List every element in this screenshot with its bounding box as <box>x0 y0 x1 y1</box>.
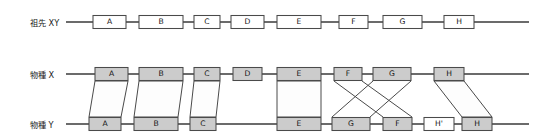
gene-species-x-D[interactable]: D <box>233 68 262 81</box>
gene-label: C <box>200 119 205 128</box>
row-label-ancestor: 祖先 XY <box>30 18 60 28</box>
gene-label: A <box>102 119 108 128</box>
gene-ancestor-E[interactable]: E <box>277 16 321 29</box>
gene-species-y-B[interactable]: B <box>134 118 178 131</box>
gene-label: D <box>245 69 251 78</box>
gene-label: E <box>297 69 302 78</box>
gene-ancestor-A[interactable]: A <box>93 16 126 29</box>
gene-species-y-G[interactable]: G <box>332 118 370 131</box>
gene-ancestor-H[interactable]: H <box>444 16 474 29</box>
gene-label: B <box>153 119 158 128</box>
gene-label: A <box>107 17 113 26</box>
ribbon-E <box>277 81 321 117</box>
gene-order-diagram: 祖先 XYABCDEFGH物種 XABCDEFGH物種 YABCEGFH'H <box>0 0 533 140</box>
gene-species-y-H[interactable]: H <box>462 118 492 131</box>
row-species-y: 物種 YABCEGFH'H <box>30 118 529 131</box>
gene-ancestor-D[interactable]: D <box>231 16 264 29</box>
gene-label: H <box>446 69 452 78</box>
row-species-x: 物種 XABCDEFGH <box>30 68 529 81</box>
gene-ancestor-B[interactable]: B <box>139 16 183 29</box>
gene-label: C <box>204 69 209 78</box>
gene-species-x-E[interactable]: E <box>277 68 321 81</box>
gene-label: H <box>474 119 480 128</box>
gene-label: B <box>158 17 163 26</box>
gene-species-x-A[interactable]: A <box>95 68 128 81</box>
ribbon-A <box>89 81 128 117</box>
gene-label: F <box>395 119 399 128</box>
gene-label: D <box>245 17 251 26</box>
gene-species-x-F[interactable]: F <box>334 68 362 81</box>
gene-ancestor-F[interactable]: F <box>339 16 368 29</box>
gene-species-x-H[interactable]: H <box>434 68 464 81</box>
row-label-species-x: 物種 X <box>30 70 55 80</box>
crossing-layer <box>332 81 412 117</box>
gene-label: G <box>400 17 406 26</box>
gene-label: G <box>348 119 354 128</box>
row-label-species-y: 物種 Y <box>30 120 55 130</box>
gene-label: B <box>158 69 163 78</box>
gene-species-y-H-prime[interactable]: H' <box>424 118 454 131</box>
gene-ancestor-C[interactable]: C <box>194 16 220 29</box>
ribbon-H <box>434 81 492 117</box>
gene-species-y-F[interactable]: F <box>383 118 412 131</box>
ribbon-C <box>190 81 220 117</box>
gene-label: E <box>297 119 302 128</box>
row-ancestor: 祖先 XYABCDEFGH <box>30 16 529 29</box>
gene-label: H <box>456 17 462 26</box>
gene-species-y-A[interactable]: A <box>89 118 121 131</box>
gene-species-x-B[interactable]: B <box>139 68 183 81</box>
gene-label: H' <box>435 119 443 128</box>
gene-label: F <box>346 69 350 78</box>
gene-species-x-C[interactable]: C <box>194 68 220 81</box>
ribbon-B <box>134 81 183 117</box>
gene-label: E <box>297 17 302 26</box>
gene-species-x-G[interactable]: G <box>373 68 411 81</box>
crossing-G-left-edge <box>332 81 373 117</box>
gene-label: G <box>389 69 395 78</box>
gene-species-y-E[interactable]: E <box>277 118 321 131</box>
gene-label: C <box>204 17 209 26</box>
gene-label: A <box>109 69 115 78</box>
gene-ancestor-G[interactable]: G <box>383 16 422 29</box>
figure-canvas: 祖先 XYABCDEFGH物種 XABCDEFGH物種 YABCEGFH'H <box>0 0 533 140</box>
gene-species-y-C[interactable]: C <box>190 118 216 131</box>
ribbon-layer <box>89 81 492 117</box>
gene-label: F <box>351 17 355 26</box>
